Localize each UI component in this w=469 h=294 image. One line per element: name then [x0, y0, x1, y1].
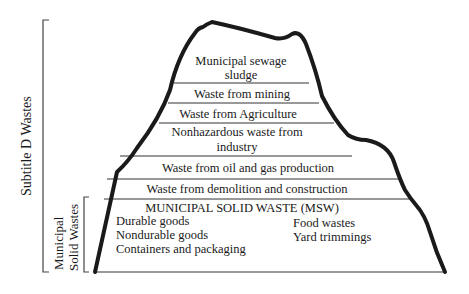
msw-item-food-wastes: Food wastes — [293, 216, 355, 230]
msw-bracket — [84, 197, 89, 272]
msw-item-yard-trimmings: Yard trimmings — [293, 230, 371, 244]
subtitle-d-wastes-label: Subtitle D Wastes — [20, 96, 34, 196]
subtitle-d-bracket — [43, 20, 49, 272]
layer-oil-gas: Waste from oil and gas production — [162, 161, 334, 175]
msw-item-containers-packaging: Containers and packaging — [116, 242, 246, 256]
layer-industry-line2: industry — [217, 140, 258, 154]
msw-heading: MUNICIPAL SOLID WASTE (MSW) — [145, 201, 339, 215]
msw-label-line2: Solid Wastes — [67, 204, 81, 271]
layer-sewage-sludge-line1: Municipal sewage — [195, 54, 286, 68]
layer-demolition: Waste from demolition and construction — [146, 182, 347, 196]
msw-item-durable-goods: Durable goods — [116, 214, 189, 228]
layer-mining: Waste from mining — [194, 87, 290, 101]
msw-label-line1: Municipal — [52, 217, 66, 270]
layer-agriculture: Waste from Agriculture — [179, 107, 297, 121]
layer-sewage-sludge-line2: sludge — [225, 68, 258, 82]
msw-item-nondurable-goods: Nondurable goods — [116, 228, 208, 242]
layer-industry-line1: Nonhazardous waste from — [171, 125, 302, 139]
